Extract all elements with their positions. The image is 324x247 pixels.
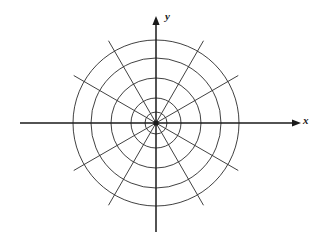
axes-group — [20, 16, 301, 232]
origin-point — [153, 120, 158, 125]
grid-spoke — [109, 123, 157, 205]
grid-spoke — [156, 41, 204, 123]
grid-spoke — [156, 76, 238, 124]
y-axis-arrowhead — [152, 16, 159, 25]
grid-spoke — [74, 123, 156, 171]
polar-grid-figure: x y — [0, 0, 324, 247]
x-axis-label: x — [303, 115, 309, 126]
grid-spoke — [74, 76, 156, 124]
grid-spoke — [156, 123, 238, 171]
y-axis-label: y — [165, 11, 170, 22]
grid-spoke — [109, 41, 157, 123]
grid-spoke — [156, 123, 204, 205]
x-axis-arrowhead — [292, 119, 301, 126]
polar-grid-canvas — [0, 0, 324, 247]
